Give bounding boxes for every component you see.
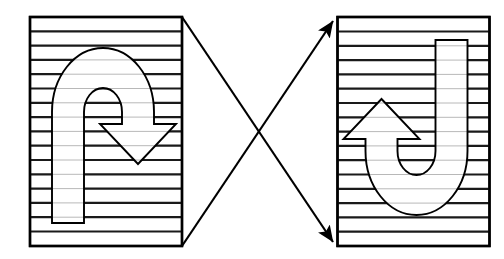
mental-rotation-figure [0, 0, 504, 259]
figure-stage [0, 0, 504, 259]
left-panel [30, 17, 182, 246]
right-panel [338, 17, 490, 246]
